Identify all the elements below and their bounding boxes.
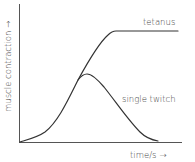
single-twitch-curve: [78, 74, 158, 141]
tetanus-curve: [20, 31, 178, 142]
muscle-contraction-chart: tetanus single twitch time/s → muscle co…: [0, 0, 195, 162]
single-twitch-label: single twitch: [122, 94, 176, 104]
x-axis-label: time/s →: [130, 150, 166, 160]
y-axis-label: muscle contraction →: [3, 21, 13, 112]
tetanus-label: tetanus: [143, 17, 175, 27]
